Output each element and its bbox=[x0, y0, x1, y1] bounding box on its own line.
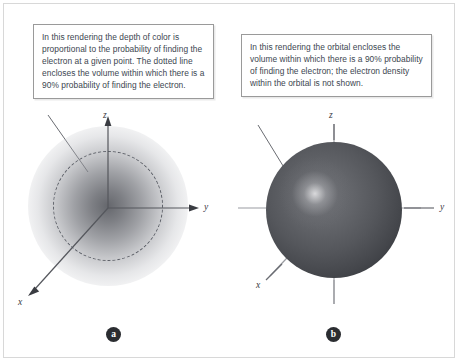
y-axis-label-b: y bbox=[440, 202, 444, 212]
z-axis-label-a: z bbox=[103, 110, 107, 120]
x-axis-label-b: x bbox=[256, 280, 260, 290]
axes-b-front bbox=[238, 104, 454, 320]
panel-badge-a: a bbox=[106, 327, 121, 342]
x-axis-line-a bbox=[35, 208, 108, 289]
orbital-panel-a: z y x bbox=[8, 104, 224, 320]
orbital-panel-b: z y x bbox=[238, 104, 454, 320]
y-axis-label-a: y bbox=[204, 202, 208, 212]
callout-box-a: In this rendering the depth of color is … bbox=[33, 24, 214, 99]
x-axis-label-a: x bbox=[18, 297, 22, 307]
x-axis-arrow-a bbox=[28, 287, 39, 296]
callout-box-b: In this rendering the orbital encloses t… bbox=[241, 34, 432, 97]
orbital-rendering-figure: In this rendering the depth of color is … bbox=[0, 0, 460, 363]
z-axis-label-b: z bbox=[329, 110, 333, 120]
panel-badge-b: b bbox=[326, 327, 341, 342]
axes-a bbox=[8, 104, 224, 320]
x-axis-tip-b bbox=[266, 264, 282, 280]
y-axis-arrow-a bbox=[189, 205, 199, 212]
